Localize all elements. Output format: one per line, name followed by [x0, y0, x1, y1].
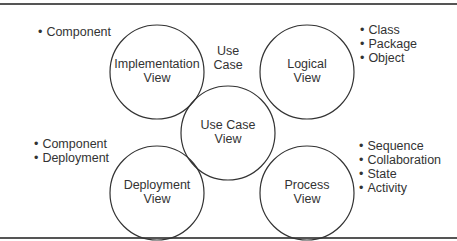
usecase-top-label: Use Case [203, 44, 253, 72]
deployment-list: Component Deployment [34, 137, 109, 165]
list-item: Package [360, 37, 417, 51]
usecase-view-label: Use Case View [178, 118, 278, 146]
list-item: Deployment [34, 151, 109, 165]
deployment-view-label: Deployment View [107, 178, 207, 206]
list-item: Sequence [359, 139, 441, 153]
process-view-label: Process View [257, 178, 357, 206]
process-list: Sequence Collaboration State Activity [359, 139, 441, 195]
implementation-view-label: Implementation View [107, 57, 207, 85]
list-item: Component [38, 25, 111, 39]
list-item: Class [360, 23, 417, 37]
logical-view-label: Logical View [257, 57, 357, 85]
implementation-list: Component [38, 25, 111, 39]
list-item: Object [360, 51, 417, 65]
list-item: State [359, 167, 441, 181]
list-item: Activity [359, 181, 441, 195]
logical-list: Class Package Object [360, 23, 417, 65]
list-item: Collaboration [359, 153, 441, 167]
list-item: Component [34, 137, 109, 151]
